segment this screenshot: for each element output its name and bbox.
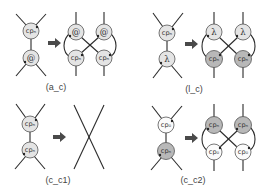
rule-c-c1-lhs: cpₙ cpₙ — [15, 104, 45, 169]
svg-text:cpₙ: cpₙ — [71, 54, 82, 62]
svg-text:cpₙ: cpₙ — [161, 147, 172, 155]
rule-c-c1: cpₙ cpₙ (c_c1) — [15, 104, 104, 185]
svg-text:cpₙ: cpₙ — [162, 29, 173, 37]
node-label: cpₙ — [26, 27, 37, 35]
svg-text:@: @ — [72, 27, 81, 37]
svg-text:cpₙ: cpₙ — [238, 121, 249, 129]
svg-text:cpₙ: cpₙ — [209, 121, 220, 129]
rule-a-c: cpₙ @ @ @ cpₙ cpₙ — [16, 12, 116, 92]
svg-text:@: @ — [100, 27, 109, 37]
rule-a-c-rhs: @ @ cpₙ cpₙ — [64, 12, 116, 76]
node-label: @ — [27, 53, 36, 63]
rule-a-c-lhs: cpₙ @ — [16, 14, 46, 76]
svg-text:cp₀: cp₀ — [161, 121, 172, 129]
arrow-icon — [185, 133, 198, 143]
svg-text:cpₙ: cpₙ — [238, 55, 249, 63]
svg-text:cpₙ: cpₙ — [209, 55, 220, 63]
svg-text:cp₀: cp₀ — [209, 148, 220, 156]
svg-text:λ: λ — [164, 54, 170, 64]
svg-text:cpₙ: cpₙ — [25, 120, 36, 128]
rule-l-c-lhs: cpₙ λ — [153, 13, 183, 78]
rule-l-c-rhs: λ λ cpₙ cpₙ — [202, 12, 255, 78]
rule-c-c2-lhs: cp₀ cpₙ — [151, 106, 182, 170]
svg-text:cpₙ: cpₙ — [99, 54, 110, 62]
rewrite-rules-diagram: cpₙ @ @ @ cpₙ cpₙ — [0, 0, 267, 194]
svg-text:cp₀: cp₀ — [238, 148, 249, 156]
caption-a-c: (a_c) — [46, 82, 67, 92]
rule-l-c: cpₙ λ λ λ cpₙ cpₙ — [153, 12, 255, 94]
rule-c-c1-rhs — [74, 105, 104, 169]
arrow-icon — [48, 38, 61, 48]
rule-c-c2: cp₀ cpₙ cpₙ cpₙ cp₀ cp₀ — [151, 104, 255, 185]
caption-c-c2: (c_c2) — [180, 175, 205, 185]
arrow-icon — [185, 39, 198, 49]
arrow-icon — [53, 132, 66, 142]
svg-text:λ: λ — [211, 27, 217, 37]
svg-text:λ: λ — [240, 27, 246, 37]
caption-l-c: (l_c) — [185, 84, 203, 94]
caption-c-c1: (c_c1) — [45, 175, 70, 185]
svg-text:cpₙ: cpₙ — [25, 146, 36, 154]
rule-c-c2-rhs: cpₙ cpₙ cp₀ cp₀ — [202, 104, 255, 171]
